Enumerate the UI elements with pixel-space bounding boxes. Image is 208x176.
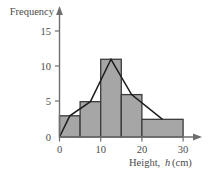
histogram-chart: 15 10 5 0 0 10 20 30 Frequency Height, h…: [0, 0, 208, 176]
y-axis-arrow-icon: [56, 6, 63, 15]
x-axis-title-prefix: Height,: [129, 157, 160, 168]
y-tick-label-10: 10: [41, 61, 52, 72]
x-axis-title-suffix: (cm): [172, 157, 192, 169]
x-tick-label-30: 30: [178, 144, 189, 155]
y-tick-label-5: 5: [46, 96, 51, 107]
y-tick-label-0: 0: [46, 132, 51, 143]
table-row: [142, 119, 183, 137]
histogram-figure: 15 10 5 0 0 10 20 30 Frequency Height, h…: [0, 0, 208, 176]
y-axis-title: Frequency: [10, 6, 55, 17]
x-axis-title-variable: h: [165, 157, 170, 168]
table-row: [60, 116, 81, 137]
x-axis-arrow-icon: [193, 134, 202, 141]
x-tick-label-0: 0: [57, 144, 62, 155]
x-axis-title: Height, h (cm): [129, 157, 192, 169]
x-tick-label-10: 10: [95, 144, 106, 155]
x-tick-label-20: 20: [137, 144, 148, 155]
bars-group: [60, 59, 184, 137]
y-tick-label-15: 15: [41, 26, 52, 37]
